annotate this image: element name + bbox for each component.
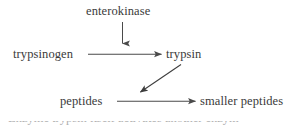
node-label-peptides: peptides: [60, 95, 102, 108]
cropped-caption-text: Enzyme trypsin itself activates another …: [8, 121, 293, 125]
reaction-diagram: enterokinase trypsinogen trypsin peptide…: [0, 0, 293, 132]
arrow-trypsin-to-peptide-reaction: [141, 65, 182, 93]
arrow-layer: [0, 0, 293, 132]
cropped-caption-line: Enzyme trypsin itself activates another …: [0, 121, 293, 132]
node-label-trypsinogen: trypsinogen: [13, 48, 73, 61]
node-label-trypsin: trypsin: [166, 48, 201, 61]
node-label-smaller-peptides: smaller peptides: [200, 95, 283, 108]
node-label-enterokinase: enterokinase: [86, 5, 150, 18]
